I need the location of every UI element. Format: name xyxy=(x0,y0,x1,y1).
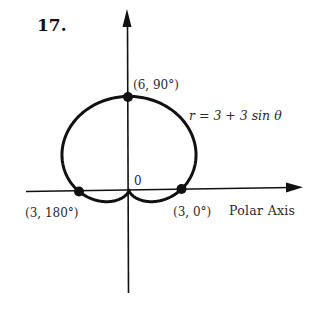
polar-graph: 17. (6, 90°) r = 3 + 3 sin θ 0 (3, 180°)… xyxy=(0,0,334,319)
point-label-6-90: (6, 90°) xyxy=(133,78,179,92)
point-3-0 xyxy=(177,184,187,194)
vertical-axis-arrow-icon xyxy=(123,9,132,27)
point-3-180 xyxy=(74,187,84,197)
polar-axis-line xyxy=(26,188,292,192)
problem-number: 17. xyxy=(37,15,67,35)
origin-label: 0 xyxy=(134,174,142,188)
cardioid-curve xyxy=(62,96,196,201)
point-6-90 xyxy=(123,92,133,102)
point-label-3-180: (3, 180°) xyxy=(25,206,79,220)
equation-label: r = 3 + 3 sin θ xyxy=(189,108,282,123)
polar-axis-arrow-icon xyxy=(286,183,303,193)
point-label-3-0: (3, 0°) xyxy=(173,205,211,219)
vertical-axis xyxy=(128,24,129,293)
polar-axis-label: Polar Axis xyxy=(229,203,295,218)
